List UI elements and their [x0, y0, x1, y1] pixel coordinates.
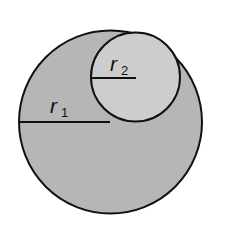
label-r2: r — [110, 52, 118, 75]
circles-diagram: r 1 r 2 — [0, 0, 230, 233]
label-r2-subscript: 2 — [121, 63, 128, 78]
label-r1-subscript: 1 — [61, 105, 68, 120]
label-r1: r — [50, 94, 58, 117]
